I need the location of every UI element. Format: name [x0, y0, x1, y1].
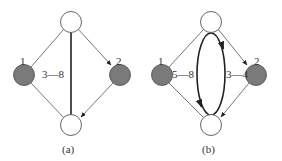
edge-left-bottom-b — [169, 83, 204, 118]
edge-top-left-a — [31, 29, 64, 67]
node-2-a — [110, 65, 131, 86]
panel-a — [14, 12, 131, 136]
node-label-1-a: 1 — [20, 56, 26, 67]
node-top-a — [61, 12, 82, 33]
edge-top-right-a — [78, 29, 111, 65]
node-bottom-b — [201, 115, 222, 136]
node-label-1-b: 1 — [158, 56, 164, 67]
edge-top-left-b — [169, 29, 204, 67]
node-label-2-a: 2 — [116, 56, 122, 67]
edge-right-bottom-b — [221, 83, 249, 117]
caption-b: (b) — [202, 144, 215, 155]
node-bottom-a — [61, 115, 82, 136]
node-label-2-b: 2 — [254, 56, 260, 67]
annotation-5-8: 5—8 — [172, 69, 194, 80]
graph-diagram — [0, 0, 282, 161]
caption-a: (a) — [62, 144, 74, 155]
annotation-3-8: 3—8 — [42, 69, 64, 80]
node-2-b — [246, 65, 267, 86]
node-top-b — [201, 12, 222, 33]
edge-left-bottom-a — [31, 83, 64, 118]
panel-b — [152, 12, 267, 136]
annotation-3-4: 3—4 — [226, 69, 248, 80]
cycle-ellipse-b — [197, 33, 225, 115]
node-1-a — [14, 65, 35, 86]
node-1-b — [152, 65, 173, 86]
edge-right-bottom-a — [81, 83, 113, 117]
